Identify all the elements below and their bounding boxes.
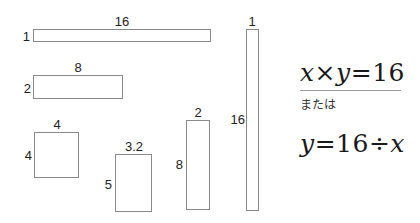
var-x: x bbox=[390, 129, 405, 158]
rectangle-1x16 bbox=[246, 29, 259, 211]
rectangle-4x4 bbox=[34, 132, 79, 178]
width-label-16: 16 bbox=[115, 15, 129, 28]
rectangle-16x1 bbox=[33, 29, 211, 42]
height-label-1: 1 bbox=[23, 30, 30, 43]
height-label-16: 16 bbox=[231, 113, 245, 126]
width-label-3.2: 3.2 bbox=[125, 140, 143, 153]
height-label-2: 2 bbox=[24, 82, 31, 95]
var-x: x bbox=[300, 58, 315, 87]
equals-sign: = bbox=[351, 58, 372, 87]
height-label-8: 8 bbox=[176, 158, 183, 171]
width-label-8: 8 bbox=[74, 61, 81, 74]
rectangle-8x2 bbox=[33, 75, 123, 99]
var-y: y bbox=[300, 129, 315, 158]
times-sign: × bbox=[315, 58, 336, 87]
dividend-value: 16 bbox=[336, 129, 369, 158]
width-label-1: 1 bbox=[248, 15, 255, 28]
rectangle-3.2x5 bbox=[115, 154, 152, 212]
equation-product: x×y=16 bbox=[300, 60, 405, 85]
rectangle-2x8 bbox=[186, 120, 210, 210]
divide-sign: ÷ bbox=[369, 129, 390, 158]
height-label-4: 4 bbox=[25, 149, 32, 162]
var-y: y bbox=[336, 58, 351, 87]
height-label-5: 5 bbox=[105, 178, 112, 191]
divider-line bbox=[300, 90, 401, 91]
equals-sign: = bbox=[315, 129, 336, 158]
width-label-2: 2 bbox=[194, 106, 201, 119]
width-label-4: 4 bbox=[53, 118, 60, 131]
or-text: または bbox=[300, 98, 336, 112]
product-value: 16 bbox=[372, 58, 405, 87]
equation-quotient: y=16÷x bbox=[300, 131, 405, 156]
